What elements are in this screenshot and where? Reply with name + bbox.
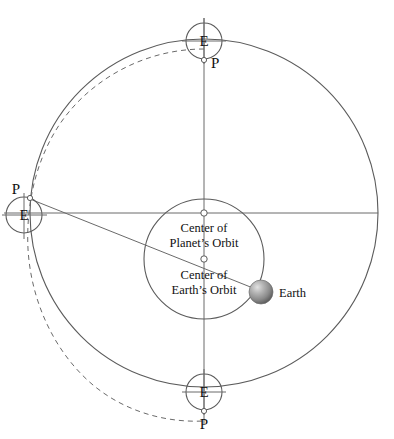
epicycle-left-planet-label: P	[12, 181, 20, 197]
epicycle-left-earth-label: E	[19, 207, 28, 223]
center-earths-orbit-label-line1: Center of	[181, 268, 229, 282]
epicycle-bottom-planet-label: P	[200, 416, 208, 432]
center-earths-orbit-marker	[201, 256, 207, 262]
earth-sphere-icon	[249, 280, 273, 304]
orbit-diagram: Center of Planet’s Orbit Center of Earth…	[0, 0, 394, 439]
center-earths-orbit-label-line2: Earth’s Orbit	[172, 283, 237, 297]
epicycle-bottom: E P	[182, 369, 226, 432]
center-planets-orbit-marker	[201, 210, 207, 216]
epicycle-top-earth-label: E	[199, 33, 208, 49]
epicycle-left: E P	[2, 181, 47, 239]
epicycle-bottom-planet-marker	[201, 408, 206, 413]
diagram-canvas: Center of Planet’s Orbit Center of Earth…	[0, 0, 394, 439]
center-planets-orbit-label-line2: Planet’s Orbit	[169, 236, 239, 250]
earth-label: Earth	[279, 286, 307, 300]
epicycle-left-planet-marker	[27, 195, 32, 200]
epicycle-bottom-earth-label: E	[199, 384, 208, 400]
center-planets-orbit-label-line1: Center of	[181, 221, 229, 235]
epicycle-top: E P	[182, 18, 226, 71]
epicycle-top-planet-marker	[201, 57, 206, 62]
epicycle-top-planet-label: P	[211, 55, 219, 71]
